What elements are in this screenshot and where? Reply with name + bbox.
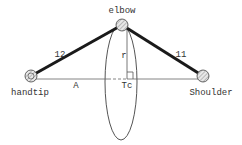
elbow-label: elbow xyxy=(108,6,136,16)
handtip-label: handtip xyxy=(11,88,49,98)
center-label: Tc xyxy=(122,81,133,91)
arm-diagram: elbow handtip Shoulder 12 11 r A Tc xyxy=(0,0,242,145)
forearm-length-label: 12 xyxy=(55,50,66,60)
upper-arm-length-label: 11 xyxy=(176,50,187,60)
handtip-joint xyxy=(25,70,37,82)
radius-label: r xyxy=(121,51,126,61)
shoulder-joint xyxy=(197,70,209,82)
right-angle-marker xyxy=(127,72,133,79)
forearm-link xyxy=(31,25,122,76)
shoulder-label: Shoulder xyxy=(189,88,232,98)
axis-label: A xyxy=(73,81,79,91)
elbow-joint xyxy=(116,19,128,31)
